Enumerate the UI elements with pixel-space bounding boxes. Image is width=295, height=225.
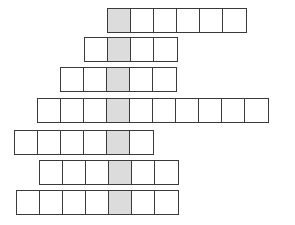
letter-cell[interactable] — [199, 8, 224, 33]
letter-cell[interactable] — [130, 8, 155, 33]
letter-cell[interactable] — [198, 98, 223, 123]
keyword-cell[interactable] — [106, 130, 131, 155]
letter-cell[interactable] — [37, 130, 62, 155]
letter-cell[interactable] — [152, 98, 177, 123]
letter-cell[interactable] — [84, 37, 109, 62]
letter-cell[interactable] — [130, 37, 155, 62]
letter-cell[interactable] — [39, 190, 64, 215]
keyword-cell[interactable] — [106, 67, 131, 92]
crossword-row-2 — [84, 37, 178, 62]
letter-cell[interactable] — [62, 190, 87, 215]
letter-cell[interactable] — [60, 98, 85, 123]
crossword-row-5 — [14, 130, 154, 155]
letter-cell[interactable] — [222, 8, 247, 33]
letter-cell[interactable] — [62, 160, 87, 185]
letter-cell[interactable] — [153, 8, 178, 33]
crossword-row-4 — [37, 98, 269, 123]
letter-cell[interactable] — [129, 98, 154, 123]
letter-cell[interactable] — [244, 98, 269, 123]
crossword-row-3 — [60, 67, 177, 92]
letter-cell[interactable] — [60, 67, 85, 92]
letter-cell[interactable] — [154, 160, 179, 185]
letter-cell[interactable] — [85, 160, 110, 185]
letter-cell[interactable] — [83, 130, 108, 155]
keyword-cell[interactable] — [107, 8, 132, 33]
letter-cell[interactable] — [131, 160, 156, 185]
letter-cell[interactable] — [221, 98, 246, 123]
letter-cell[interactable] — [83, 98, 108, 123]
letter-cell[interactable] — [131, 190, 156, 215]
crossword-row-7 — [16, 190, 179, 215]
letter-cell[interactable] — [60, 130, 85, 155]
letter-cell[interactable] — [16, 190, 41, 215]
keyword-cell[interactable] — [108, 190, 133, 215]
letter-cell[interactable] — [83, 67, 108, 92]
letter-cell[interactable] — [153, 37, 178, 62]
keyword-cell[interactable] — [108, 160, 133, 185]
crossword-row-1 — [107, 8, 247, 33]
letter-cell[interactable] — [39, 160, 64, 185]
letter-cell[interactable] — [129, 130, 154, 155]
letter-cell[interactable] — [175, 98, 200, 123]
letter-cell[interactable] — [176, 8, 201, 33]
crossword-row-6 — [39, 160, 179, 185]
letter-cell[interactable] — [152, 67, 177, 92]
letter-cell[interactable] — [14, 130, 39, 155]
letter-cell[interactable] — [37, 98, 62, 123]
keyword-cell[interactable] — [106, 98, 131, 123]
keyword-cell[interactable] — [107, 37, 132, 62]
letter-cell[interactable] — [129, 67, 154, 92]
letter-cell[interactable] — [85, 190, 110, 215]
letter-cell[interactable] — [154, 190, 179, 215]
